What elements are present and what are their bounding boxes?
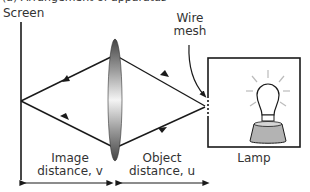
image-distance-label-line2: distance, v [30, 165, 110, 178]
screen-label: Screen [3, 7, 44, 20]
lamp-label: Lamp [234, 152, 274, 165]
object-distance-label-line2: distance, u [122, 165, 202, 178]
wire-mesh-pointer-arrow [189, 45, 204, 95]
wire-mesh-label-line2: mesh [172, 25, 208, 38]
convex-lens [108, 39, 122, 161]
